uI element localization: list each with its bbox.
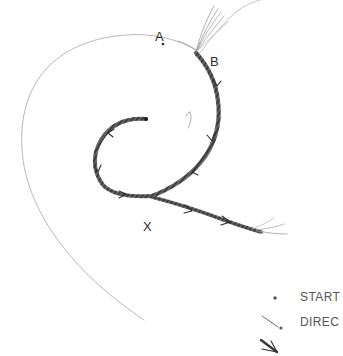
point-label-b: B <box>210 55 219 68</box>
legend-label-start: START <box>300 290 340 304</box>
figure-root: A B X START DIREC <box>0 0 343 356</box>
legend-item-start: START <box>258 286 343 311</box>
legend-item-arrow <box>258 336 343 356</box>
start-dot-icon <box>258 286 296 311</box>
heavy-band-spiral <box>95 53 219 196</box>
start-point-dot <box>144 117 148 121</box>
legend-label-direction: DIREC <box>300 315 339 329</box>
point-label-a: A <box>155 30 164 43</box>
outer-thin-spiral <box>22 35 196 320</box>
arrow-barb-icon <box>258 336 296 356</box>
fan-lines-at-b <box>196 0 260 54</box>
direction-line-icon <box>258 311 296 336</box>
legend-item-direction: DIREC <box>258 311 343 336</box>
outgoing-tail-from-x <box>152 197 287 234</box>
center-hook-mark <box>186 112 191 128</box>
legend: START DIREC <box>258 286 343 356</box>
point-label-x: X <box>143 220 152 233</box>
